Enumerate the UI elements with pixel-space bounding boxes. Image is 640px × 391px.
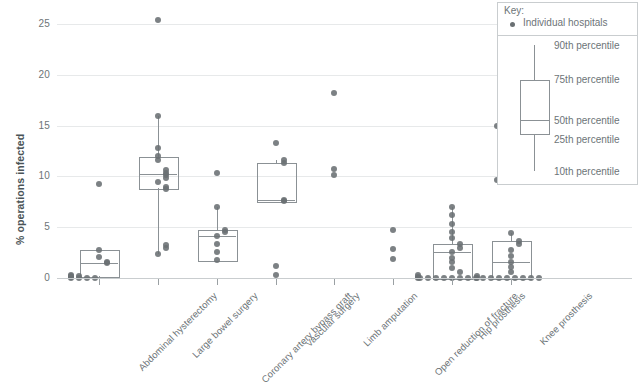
y-tick-label: 0: [24, 272, 50, 283]
box-plot-whisker-lower: [158, 188, 159, 254]
data-point-dot: [449, 235, 455, 241]
data-point-dot: [281, 157, 287, 163]
data-point-dot: [390, 256, 396, 262]
data-point-dot: [155, 113, 161, 119]
data-point-dot: [214, 257, 220, 263]
individual-hospital-dot-icon: [510, 22, 515, 27]
legend-dot-label: Individual hospitals: [523, 17, 608, 28]
x-tick: [334, 279, 335, 285]
x-tick: [99, 279, 100, 285]
data-point-dot: [155, 251, 161, 257]
x-tick: [511, 279, 512, 285]
legend-title: Key:: [504, 5, 524, 16]
data-point-dot: [273, 263, 279, 269]
box-plot-box: [257, 163, 297, 203]
grid-line: [57, 227, 632, 228]
data-point-dot: [508, 253, 514, 259]
legend-p50-label: 50th percentile: [554, 115, 620, 126]
x-axis-line: [57, 278, 632, 279]
legend-panel: Key: Individual hospitals 90th percentil…: [497, 2, 638, 185]
data-point-dot: [449, 255, 455, 261]
x-axis-category-label: Vascular surgery: [303, 290, 362, 349]
legend-p10-label: 10th percentile: [554, 166, 620, 177]
y-tick-label: 25: [24, 18, 50, 29]
data-point-dot: [449, 229, 455, 235]
legend-p90-label: 90th percentile: [554, 40, 620, 51]
data-point-dot: [163, 167, 169, 173]
data-point-dot: [96, 254, 102, 260]
data-point-dot: [449, 249, 455, 255]
legend-p75-label: 75th percentile: [554, 74, 620, 85]
legend-p25-label: 25th percentile: [554, 134, 620, 145]
data-point-dot: [155, 17, 161, 23]
x-tick: [158, 279, 159, 285]
x-tick: [276, 279, 277, 285]
data-point-dot: [155, 145, 161, 151]
data-point-dot: [331, 172, 337, 178]
data-point-dot: [96, 181, 102, 187]
x-tick: [217, 279, 218, 285]
data-point-dot: [457, 269, 463, 275]
data-point-dot: [96, 247, 102, 253]
box-plot-chart: % operations infected 0510152025 Abdomin…: [0, 0, 640, 391]
data-point-dot: [222, 227, 228, 233]
box-plot-median-line: [139, 174, 177, 175]
data-point-dot: [163, 184, 169, 190]
box-plot-median-line: [257, 200, 295, 201]
data-point-dot: [214, 204, 220, 210]
data-point-dot: [449, 265, 455, 271]
box-plot-whisker-upper: [158, 116, 159, 157]
data-point-dot: [273, 140, 279, 146]
y-tick-label: 10: [24, 170, 50, 181]
box-plot-median-line: [80, 263, 118, 264]
data-point-dot: [104, 259, 110, 265]
data-point-dot: [331, 90, 337, 96]
data-point-dot: [516, 238, 522, 244]
data-point-dot: [390, 227, 396, 233]
x-axis-category-label: Abdominal hysterectomy: [136, 290, 219, 373]
x-axis-category-label: Limb amputation: [361, 290, 420, 349]
y-tick-label: 15: [24, 120, 50, 131]
legend-whisker-bottom: [534, 135, 535, 171]
data-point-dot: [508, 247, 514, 253]
legend-whisker-top: [534, 45, 535, 80]
x-tick: [393, 279, 394, 285]
data-point-dot: [281, 197, 287, 203]
box-plot-whisker-upper: [217, 207, 218, 230]
legend-box-shape: [520, 80, 550, 135]
y-tick-label: 20: [24, 69, 50, 80]
y-tick-label: 5: [24, 221, 50, 232]
x-tick: [452, 279, 453, 285]
data-point-dot: [390, 246, 396, 252]
data-point-dot: [214, 249, 220, 255]
data-point-dot: [449, 212, 455, 218]
data-point-dot: [508, 259, 514, 265]
x-axis-category-label: Hip prosthesis: [476, 290, 527, 341]
data-point-dot: [331, 166, 337, 172]
box-plot-whisker-upper: [276, 160, 277, 163]
data-point-dot: [508, 230, 514, 236]
data-point-dot: [449, 204, 455, 210]
legend-median-line: [520, 120, 550, 121]
x-axis-category-label: Knee prosthesis: [537, 290, 594, 347]
